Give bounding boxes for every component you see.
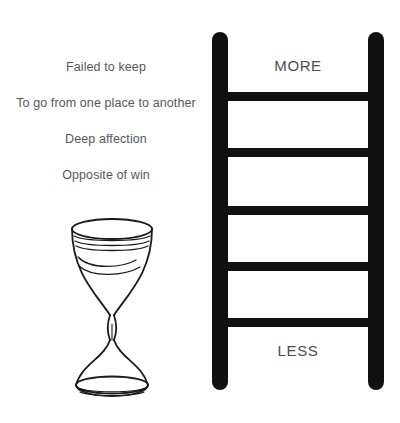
worksheet-canvas: Failed to keep To go from one place to a…: [0, 0, 400, 423]
hourglass-base-rim: [76, 377, 148, 394]
clue-item: Opposite of win: [0, 168, 212, 183]
ladder-bottom-label: LESS: [228, 342, 368, 359]
hourglass-waist-right: [114, 315, 116, 340]
clue-item: Deep affection: [0, 132, 212, 147]
hourglass-waist-left: [108, 315, 110, 340]
clue-item: To go from one place to another: [0, 96, 212, 111]
ladder-rungs: [214, 92, 382, 327]
hourglass-top-rim: [72, 219, 152, 239]
hourglass-graphic: [60, 212, 164, 402]
ladder-top-label: MORE: [228, 57, 368, 74]
clue-list: Failed to keep To go from one place to a…: [0, 60, 212, 183]
clue-item: Failed to keep: [0, 60, 212, 75]
hourglass-sand-streaks: [78, 257, 140, 274]
